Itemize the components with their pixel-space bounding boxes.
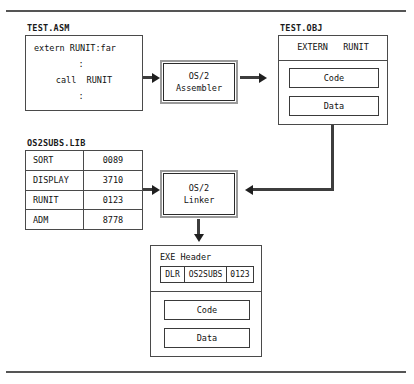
source-code-line-1: extern RUNIT:far xyxy=(26,43,142,53)
table-row: DISPLAY 3710 xyxy=(26,171,142,191)
arrowhead-lib-to-linker xyxy=(152,185,160,195)
library-symbol-name: DISPLAY xyxy=(26,171,84,190)
exe-header-cell-type: DLR xyxy=(161,267,185,282)
object-file-box: EXTERN RUNIT Code Data xyxy=(278,35,388,125)
object-code-segment: Code xyxy=(289,68,379,88)
source-code-line-4: : xyxy=(26,91,142,101)
diagram-canvas: TEST.ASM extern RUNIT:far : call RUNIT :… xyxy=(0,0,414,384)
object-file-caption: TEST.OBJ xyxy=(280,23,323,33)
table-row: ADM 8778 xyxy=(26,210,142,229)
page-top-rule xyxy=(6,10,406,12)
object-data-segment: Data xyxy=(289,96,379,116)
library-symbol-value: 3710 xyxy=(84,171,142,190)
arrowhead-asm-to-assembler xyxy=(152,73,160,83)
library-table: SORT 0089 DISPLAY 3710 RUNIT 0123 ADM 87… xyxy=(25,150,143,230)
linker-label-line-1: OS/2 xyxy=(189,182,209,194)
library-symbol-value: 0123 xyxy=(84,191,142,210)
library-symbol-name: RUNIT xyxy=(26,191,84,210)
arrowhead-obj-to-linker xyxy=(245,185,253,195)
exe-divider xyxy=(151,291,261,292)
exe-data-segment: Data xyxy=(164,328,250,348)
library-caption: OS2SUBS.LIB xyxy=(27,138,86,148)
library-symbol-value: 0089 xyxy=(84,151,142,170)
source-file-box: extern RUNIT:far : call RUNIT : xyxy=(25,35,143,111)
source-code-line-3: call RUNIT xyxy=(26,75,142,85)
arrowhead-assembler-to-obj xyxy=(259,73,267,83)
table-row: SORT 0089 xyxy=(26,151,142,171)
source-code-line-2: : xyxy=(26,59,142,69)
library-symbol-value: 8778 xyxy=(84,210,142,229)
table-row: RUNIT 0123 xyxy=(26,191,142,211)
exe-header-row: DLR OS2SUBS 0123 xyxy=(160,266,254,283)
source-file-caption: TEST.ASM xyxy=(27,23,70,33)
arrowhead-linker-to-exe xyxy=(194,234,204,242)
object-divider xyxy=(279,60,387,61)
executable-box: EXE Header DLR OS2SUBS 0123 Code Data xyxy=(150,245,262,357)
object-extern-label: EXTERN RUNIT xyxy=(279,42,387,52)
exe-header-cell-module: OS2SUBS xyxy=(185,267,227,282)
exe-header-cell-offset: 0123 xyxy=(227,267,253,282)
linker-label-line-2: Linker xyxy=(184,194,215,206)
library-symbol-name: ADM xyxy=(26,210,84,229)
connector-obj-vertical xyxy=(331,125,334,191)
connector-obj-horizontal xyxy=(253,188,334,191)
library-symbol-name: SORT xyxy=(26,151,84,170)
assembler-process-box: OS/2 Assembler xyxy=(160,60,238,104)
assembler-label-line-2: Assembler xyxy=(176,82,222,94)
linker-process-box: OS/2 Linker xyxy=(160,170,238,218)
exe-header-title: EXE Header xyxy=(160,252,211,262)
assembler-label-line-1: OS/2 xyxy=(189,70,209,82)
exe-code-segment: Code xyxy=(164,300,250,320)
page-bottom-rule xyxy=(6,371,406,373)
